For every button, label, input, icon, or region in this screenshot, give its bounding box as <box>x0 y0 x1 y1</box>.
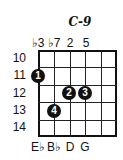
degree-label: 2 <box>62 36 78 50</box>
fret-number: 10 <box>4 51 26 65</box>
fret-line <box>38 102 117 103</box>
string-line <box>54 50 55 137</box>
finger-dot: 3 <box>78 86 92 100</box>
fret-line <box>38 120 117 121</box>
degree-label: ♭7 <box>46 36 62 50</box>
fret-line <box>38 85 117 86</box>
fret-number: 12 <box>4 86 26 100</box>
chord-title: C-9 <box>60 15 100 29</box>
finger-dot: 4 <box>47 104 61 118</box>
fret-number: 14 <box>4 120 26 134</box>
degree-label: 5 <box>78 36 94 50</box>
fret-number: 13 <box>4 103 26 117</box>
string-line <box>101 50 102 137</box>
fret-number: 11 <box>4 68 26 82</box>
fret-line <box>38 67 117 68</box>
finger-dot: 2 <box>62 86 76 100</box>
degree-label: ♭3 <box>30 36 46 50</box>
note-label: G <box>76 140 94 154</box>
finger-dot: 1 <box>31 69 45 83</box>
